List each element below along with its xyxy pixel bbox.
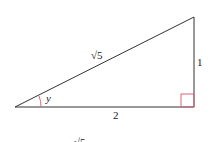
adjacent-side-label: 2: [113, 109, 119, 121]
right-angle-marker: [181, 94, 194, 107]
opposite-side-label: 1: [197, 56, 203, 68]
right-triangle-diagram: √5 1 2 y √5: [0, 0, 211, 142]
hypotenuse-label: √5: [91, 49, 103, 61]
angle-arc: [39, 96, 41, 107]
triangle: [15, 17, 194, 107]
angle-label: y: [45, 92, 51, 104]
cutoff-label: √5: [74, 136, 86, 142]
